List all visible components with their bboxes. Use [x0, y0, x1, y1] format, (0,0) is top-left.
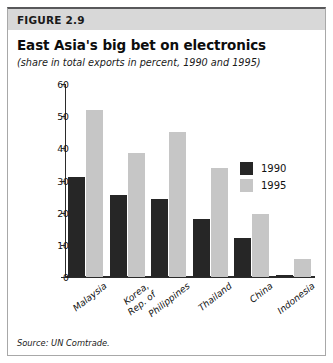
figure-header-band: FIGURE 2.9 [8, 9, 325, 30]
y-axis-tick-mark [61, 148, 65, 149]
y-axis-tick-mark [61, 245, 65, 246]
y-axis-tick-mark [61, 213, 65, 214]
legend-label-1990: 1990 [261, 163, 286, 174]
title-block: East Asia's big bet on electronics (shar… [8, 30, 325, 68]
legend-label-1995: 1995 [261, 180, 286, 191]
chart-title: East Asia's big bet on electronics [17, 37, 316, 53]
legend-swatch-1990 [240, 162, 253, 175]
y-axis-tick-mark [61, 277, 65, 278]
figure-frame: FIGURE 2.9 East Asia's big bet on electr… [7, 7, 326, 356]
legend-item: 1990 [240, 160, 286, 177]
bar-1990 [276, 275, 293, 277]
bar-1995 [211, 168, 228, 277]
bar-1990 [234, 238, 251, 277]
source-note: Source: UN Comtrade. [17, 338, 110, 348]
bar-1995 [86, 110, 103, 277]
bar-1995 [128, 153, 145, 277]
y-axis-tick-mark [61, 181, 65, 182]
bar-1990 [151, 199, 168, 277]
bar-1995 [252, 214, 269, 277]
x-axis-tick-label: China [247, 280, 274, 305]
figure-number-label: FIGURE 2.9 [17, 14, 85, 26]
legend-swatch-1995 [240, 179, 253, 192]
y-axis-tick-mark [61, 116, 65, 117]
x-axis-tick-label: Thailand [195, 280, 233, 313]
legend-item: 1995 [240, 177, 286, 194]
x-axis-tick-label: Malaysia [70, 280, 108, 313]
y-axis-tick-mark [61, 84, 65, 85]
bar-1995 [294, 259, 311, 277]
x-axis-tick-label: Indonesia [274, 280, 316, 316]
chart-legend: 19901995 [240, 160, 286, 194]
bar-1990 [68, 177, 85, 277]
chart-subtitle: (share in total exports in percent, 1990… [17, 57, 316, 68]
bar-1990 [110, 195, 127, 277]
bar-1990 [193, 219, 210, 277]
x-axis-labels: MalaysiaKorea,Rep. ofPhilippinesThailand… [66, 280, 318, 330]
plot-area: 0102030405060 MalaysiaKorea,Rep. ofPhili… [8, 74, 325, 326]
bar-1995 [169, 132, 186, 277]
